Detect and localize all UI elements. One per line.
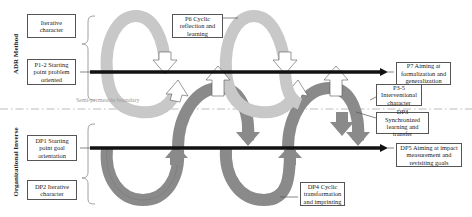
dp1-starting-point-box: DP1 Starting point goal orientation <box>27 135 77 161</box>
dp5-impact-measurement-box: DP5 Aiming at impact measurement and rev… <box>396 143 462 167</box>
p1-2-starting-point-box: P1-2 Starting point problem oriented <box>27 59 76 85</box>
top-brace <box>82 16 95 100</box>
light-cycle-3 <box>226 16 297 74</box>
light-cycle-2 <box>107 72 188 112</box>
dark-cycle-2 <box>178 88 260 148</box>
p7-aiming-formalization-box: P7 Aiming at formalization and generaliz… <box>396 62 451 85</box>
semi-permeable-boundary-label: Semi-permeable boundary <box>76 97 139 103</box>
org-timeline-arrowhead <box>380 144 388 152</box>
p6-cyclic-reflection-box: P6 Cyclic reflection and learning <box>172 14 223 38</box>
light-cycle-1 <box>107 16 177 74</box>
iterative-character-box: Iterative character <box>27 14 76 38</box>
dp2-iterative-box: DP2 Iterative character <box>27 180 77 200</box>
dp3-synchronized-box: DP3 Synchronized learning and transfer <box>376 112 429 134</box>
organizational-inverse-label: Organizational Inverse <box>12 118 20 206</box>
dark-cycle-1 <box>107 145 188 200</box>
dp4-cyclic-transformation-box: DP4 Cyclic transformation and imprinting <box>300 182 345 206</box>
adr-diagram: ADR Method Organizational Inverse Semi-p… <box>0 0 472 217</box>
p3-5-interventional-box: P3-5 Interventional character <box>376 84 422 106</box>
bottom-brace <box>82 124 95 204</box>
adr-timeline-arrowhead <box>380 68 388 76</box>
adr-method-label: ADR Method <box>12 24 20 84</box>
dark-cycle-3 <box>226 145 302 200</box>
